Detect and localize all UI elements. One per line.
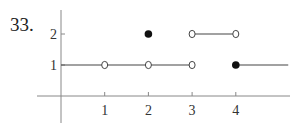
closed-point (232, 61, 240, 69)
open-point (145, 61, 151, 68)
open-point (233, 30, 239, 37)
x-tick-label: 2 (145, 103, 152, 118)
x-tick-label: 3 (189, 103, 196, 118)
step-function-plot: 123412 (0, 0, 290, 125)
y-tick-label: 1 (50, 58, 57, 73)
open-point (189, 30, 195, 37)
open-point (189, 61, 195, 68)
x-tick-label: 4 (232, 103, 239, 118)
closed-point (145, 30, 153, 38)
problem-number: 33. (10, 14, 34, 36)
y-tick-label: 2 (50, 27, 57, 42)
open-point (102, 61, 108, 68)
x-tick-label: 1 (101, 103, 108, 118)
figure: 33. 123412 (0, 0, 290, 125)
